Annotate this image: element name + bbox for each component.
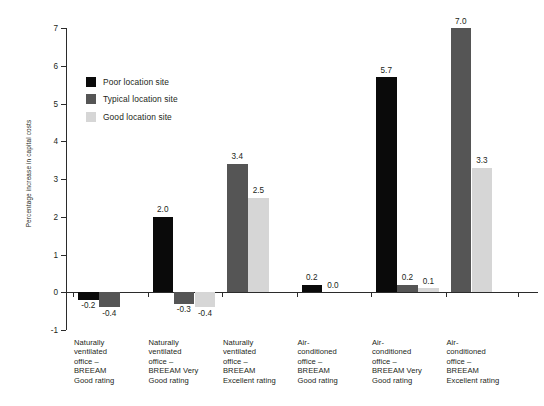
bar — [451, 28, 472, 292]
zero-baseline — [66, 292, 538, 293]
x-axis-label-line: Naturally — [74, 338, 141, 347]
y-tick-label: 3 — [53, 175, 58, 184]
x-tick-mark — [446, 292, 447, 297]
x-axis-label-line: conditioned — [447, 347, 514, 356]
legend-item-good: Good location site — [86, 111, 178, 122]
bar-value-label: 0.0 — [327, 281, 338, 290]
x-axis-label-line: office – — [372, 357, 439, 366]
x-axis-label-line: office – — [74, 357, 141, 366]
legend-label-typical: Typical location site — [103, 94, 178, 104]
x-axis-label-line: BREEAM — [298, 366, 365, 375]
x-tick-mark — [148, 292, 149, 297]
x-axis-label-line: Excellent rating — [447, 376, 514, 385]
bar — [418, 288, 439, 292]
legend-swatch-icon-good — [86, 112, 96, 122]
bar-chart: Percentage increase in capital costs -10… — [0, 0, 544, 406]
x-axis-label-line: Good rating — [372, 376, 439, 385]
plot-area: -101234567 -0.2-0.42.0-0.3-0.43.42.50.20… — [66, 28, 538, 330]
x-axis-label-line: office – — [447, 357, 514, 366]
y-tick-label: 5 — [53, 99, 58, 108]
bar — [472, 168, 493, 293]
x-tick-mark — [371, 292, 372, 297]
x-axis-label: Air-conditionedoffice –BREEAMGood rating — [298, 338, 365, 385]
x-tick-mark — [297, 292, 298, 297]
x-axis-label-line: office – — [149, 357, 216, 366]
bar — [397, 285, 418, 293]
x-axis-label: Naturallyventilatedoffice –BREEAMGood ra… — [74, 338, 141, 385]
bar — [174, 292, 195, 303]
bar-value-label: 7.0 — [455, 17, 466, 26]
y-tick-label: 2 — [53, 212, 58, 221]
legend-swatch-icon-typical — [86, 94, 96, 104]
x-axis-label-line: conditioned — [372, 347, 439, 356]
legend-label-poor: Poor location site — [103, 77, 169, 87]
x-axis-label-line: BREEAM Very — [372, 366, 439, 375]
y-tick-label: 6 — [53, 61, 58, 70]
bar-value-label: 3.4 — [232, 152, 243, 161]
x-axis-label: Naturallyventilatedoffice –BREEAMExcelle… — [223, 338, 290, 385]
x-axis-label: Naturallyventilatedoffice –BREEAM VeryGo… — [149, 338, 216, 385]
bar-value-label: 5.7 — [381, 66, 392, 75]
bar-value-label: -0.4 — [102, 309, 116, 318]
y-axis-title: Percentage increase in capital costs — [25, 84, 32, 264]
x-axis-label-line: Air- — [372, 338, 439, 347]
bar-value-label: 0.2 — [306, 273, 317, 282]
y-tick-mark — [61, 28, 66, 29]
bar-value-label: 3.3 — [476, 156, 487, 165]
x-axis-label-line: ventilated — [74, 347, 141, 356]
bar — [195, 292, 216, 307]
bar-value-label: 2.0 — [157, 205, 168, 214]
legend-label-good: Good location site — [103, 112, 172, 122]
y-tick-mark — [61, 330, 66, 331]
x-axis-label: Air-conditionedoffice –BREEAM VeryGood r… — [372, 338, 439, 385]
x-axis-label-line: Naturally — [149, 338, 216, 347]
y-tick-label: 7 — [53, 24, 58, 33]
x-tick-mark — [518, 292, 519, 297]
y-tick-mark — [61, 217, 66, 218]
bar-value-label: 0.1 — [423, 277, 434, 286]
bar — [153, 217, 174, 293]
bar-value-label: -0.4 — [198, 309, 212, 318]
bar-value-label: -0.3 — [177, 305, 191, 314]
bar — [78, 292, 99, 300]
y-tick-mark — [61, 255, 66, 256]
x-axis-label-line: ventilated — [223, 347, 290, 356]
x-axis-label-line: BREEAM — [74, 366, 141, 375]
x-axis-label-line: Good rating — [298, 376, 365, 385]
x-axis-label-line: Air- — [447, 338, 514, 347]
x-axis-label-line: Good rating — [149, 376, 216, 385]
bar — [248, 198, 269, 292]
x-axis-label: Air-conditionedoffice –BREEAMExcellent r… — [447, 338, 514, 385]
bar-value-label: 2.5 — [253, 186, 264, 195]
x-axis-label-line: BREEAM — [447, 366, 514, 375]
y-tick-mark — [61, 104, 66, 105]
y-tick-label: 4 — [53, 137, 58, 146]
bar-value-label: -0.2 — [81, 301, 95, 310]
y-tick-label: -1 — [51, 326, 58, 335]
x-tick-mark — [222, 292, 223, 297]
bar — [376, 77, 397, 292]
y-axis-line — [66, 28, 67, 330]
y-tick-label: 1 — [53, 250, 58, 259]
legend-item-poor: Poor location site — [86, 76, 178, 87]
y-tick-label: 0 — [53, 288, 58, 297]
x-axis-label-line: ventilated — [149, 347, 216, 356]
x-axis-label-line: conditioned — [298, 347, 365, 356]
x-axis-label-line: Naturally — [223, 338, 290, 347]
x-axis-label-line: BREEAM — [223, 366, 290, 375]
x-axis-label-line: Air- — [298, 338, 365, 347]
legend: Poor location site Typical location site… — [86, 76, 178, 129]
legend-swatch-icon-poor — [86, 77, 96, 87]
x-tick-mark — [73, 292, 74, 297]
x-axis-label-line: office – — [223, 357, 290, 366]
bar-value-label: 0.2 — [402, 273, 413, 282]
bar — [227, 164, 248, 292]
y-tick-mark — [61, 66, 66, 67]
bar — [99, 292, 120, 307]
x-axis-label-line: BREEAM Very — [149, 366, 216, 375]
y-tick-mark — [61, 141, 66, 142]
y-tick-mark — [61, 179, 66, 180]
x-axis-label-line: office – — [298, 357, 365, 366]
legend-item-typical: Typical location site — [86, 94, 178, 105]
bar — [302, 285, 323, 293]
